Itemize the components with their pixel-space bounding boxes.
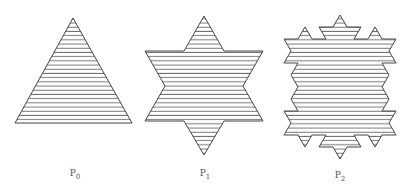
label-p1-subscript: 1 (206, 173, 210, 181)
label-p0: P0 (70, 168, 81, 181)
label-p2: P2 (335, 170, 346, 183)
snowflake-diagram (0, 0, 410, 190)
koch-snowflake-p2 (284, 15, 396, 159)
label-p0-subscript: 0 (76, 173, 80, 181)
label-p2-subscript: 2 (341, 175, 345, 183)
hexagram-p1 (145, 16, 263, 155)
triangle-p0 (15, 18, 132, 123)
label-p1: P1 (200, 168, 211, 181)
